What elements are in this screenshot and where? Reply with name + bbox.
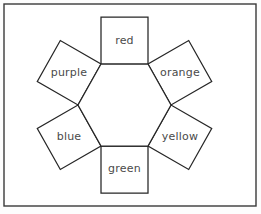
label-blue: blue [57, 130, 82, 143]
hexagon-net-diagram: red orange yellow green blue purple [0, 0, 261, 214]
label-purple: purple [51, 66, 88, 79]
label-orange: orange [160, 66, 200, 79]
label-green: green [108, 162, 141, 175]
label-yellow: yellow [162, 130, 198, 143]
label-red: red [115, 34, 134, 47]
figure-container: red orange yellow green blue purple [0, 0, 261, 214]
